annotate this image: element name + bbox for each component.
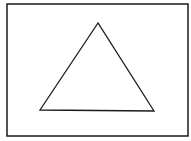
- diagram-svg: [0, 0, 191, 141]
- diagram-canvas: [0, 0, 191, 141]
- triangle-shape: [40, 23, 154, 111]
